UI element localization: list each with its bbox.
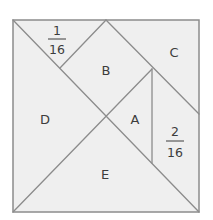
piece-label-a: A (131, 112, 140, 127)
fraction-numerator: 2 (171, 124, 179, 139)
piece-label-b: B (102, 63, 111, 78)
fraction-numerator: 1 (53, 23, 61, 38)
piece-label-d: D (40, 112, 50, 127)
piece-label-c: C (169, 45, 178, 60)
fraction-denominator: 16 (167, 145, 183, 160)
piece-label-e: E (101, 167, 109, 182)
tangram-diagram: 1 16 B C D A 2 16 E (0, 0, 213, 220)
fraction-denominator: 16 (49, 42, 65, 57)
